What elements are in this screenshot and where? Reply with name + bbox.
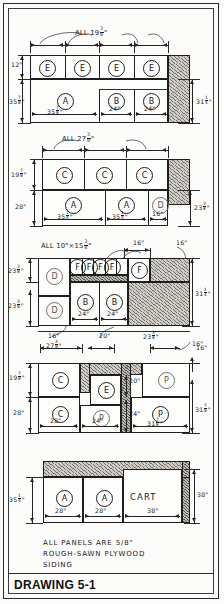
arrow bbox=[100, 43, 104, 47]
arrow bbox=[88, 346, 92, 350]
sheet-2-dim-left-2: 28" bbox=[15, 204, 26, 211]
sheet-5-dim-left-1: 3514" bbox=[9, 494, 25, 504]
ext bbox=[40, 344, 41, 353]
drawing-page: ALL 1938" E E E bbox=[0, 0, 224, 604]
divider bbox=[65, 55, 66, 79]
arrow bbox=[124, 428, 128, 432]
dimline bbox=[194, 469, 195, 523]
sheet-3-dim-bottom-5: 2338" bbox=[143, 331, 159, 341]
arrow bbox=[101, 112, 105, 116]
arrow bbox=[76, 514, 80, 518]
dimline bbox=[44, 219, 103, 220]
arrow bbox=[44, 217, 48, 221]
sheet-1-dim-bottom-3: 24" bbox=[144, 106, 155, 113]
arrow bbox=[120, 148, 124, 152]
panel-label-E: E bbox=[74, 60, 91, 77]
divider bbox=[99, 89, 168, 90]
arrow bbox=[124, 376, 128, 380]
panel-label-C: C bbox=[56, 167, 73, 184]
sheet-5-dim-bottom-3: 38" bbox=[147, 508, 158, 515]
panel-label-F: F bbox=[131, 262, 148, 279]
arrow bbox=[85, 514, 89, 518]
dimline bbox=[32, 477, 33, 523]
divider bbox=[134, 89, 135, 123]
sheet-5-dim-bottom-1: 28" bbox=[55, 508, 66, 515]
ext bbox=[26, 433, 39, 434]
arrow bbox=[125, 514, 129, 518]
panel-label-C: C bbox=[52, 372, 69, 389]
arrow bbox=[28, 277, 32, 281]
arrow bbox=[190, 357, 194, 361]
panel-label-D: D bbox=[46, 302, 63, 319]
arrow bbox=[124, 400, 128, 404]
sheet-2-dim-bottom-3: 16" bbox=[152, 211, 163, 218]
arrow bbox=[190, 428, 194, 432]
arrow bbox=[127, 112, 131, 116]
arrow bbox=[73, 424, 77, 428]
arrow bbox=[188, 221, 192, 225]
sheet-4-dim-right-2: 16" bbox=[196, 345, 207, 352]
ext bbox=[18, 55, 31, 56]
arrow bbox=[28, 398, 32, 402]
divider bbox=[105, 190, 106, 226]
arrow bbox=[45, 514, 49, 518]
panel-label-E: E bbox=[143, 60, 160, 77]
ext bbox=[182, 363, 200, 364]
arrow bbox=[190, 380, 194, 384]
ext bbox=[184, 523, 200, 524]
sheet-2-dim-right-1: 2338" bbox=[194, 202, 210, 212]
dimline bbox=[32, 114, 97, 115]
divider bbox=[134, 55, 135, 79]
arrow bbox=[85, 148, 89, 152]
arrow bbox=[82, 424, 86, 428]
arrow bbox=[94, 43, 98, 47]
sheet-2-waste-right bbox=[168, 159, 190, 205]
ext bbox=[178, 123, 200, 124]
arrow bbox=[190, 118, 194, 122]
arrow bbox=[28, 291, 32, 295]
arrow bbox=[30, 518, 34, 522]
arrow bbox=[32, 191, 36, 195]
ext bbox=[124, 248, 125, 258]
ext bbox=[168, 146, 169, 158]
dimline bbox=[125, 516, 180, 517]
arrow bbox=[128, 43, 132, 47]
sheet-5-dim-bottom-2: 28" bbox=[95, 508, 106, 515]
arrow bbox=[183, 424, 187, 428]
panel-label-F: F bbox=[104, 259, 121, 276]
arrow bbox=[66, 43, 70, 47]
ext bbox=[18, 123, 31, 124]
sheet-4-dim-right-1: 3178" bbox=[195, 404, 211, 414]
arrow bbox=[162, 112, 166, 116]
sheet-3-lower-dim-1: 2738" bbox=[46, 340, 62, 350]
arrow bbox=[145, 248, 149, 252]
sheet-3-dim-bottom-2: 24" bbox=[107, 311, 118, 318]
arrow bbox=[28, 364, 32, 368]
sheet-1-dim-right-1: 3114" bbox=[196, 96, 212, 106]
panel-label-C: C bbox=[96, 167, 113, 184]
ext bbox=[182, 433, 200, 434]
sheet-5-dim-right-1: 38" bbox=[197, 492, 208, 499]
note-line-3: SIDING bbox=[43, 560, 73, 571]
divider bbox=[99, 89, 100, 123]
dimline bbox=[192, 79, 193, 123]
arrow bbox=[163, 43, 167, 47]
arrow bbox=[32, 185, 36, 189]
ext bbox=[26, 523, 43, 524]
arrow bbox=[192, 470, 196, 474]
ext bbox=[150, 248, 151, 258]
ext bbox=[178, 226, 200, 227]
sheet-3-dim-left-1: 2338" bbox=[8, 265, 24, 275]
arrow bbox=[20, 56, 24, 60]
ext bbox=[26, 326, 39, 327]
sheet-2-dim-bottom-2: 3514" bbox=[112, 211, 128, 221]
arrow bbox=[32, 112, 36, 116]
arrow bbox=[28, 259, 32, 263]
arrow bbox=[92, 112, 96, 116]
sheet-1-dim-bottom-2: 24" bbox=[109, 106, 120, 113]
panel-label-D: D bbox=[46, 268, 63, 285]
arrow bbox=[133, 424, 137, 428]
arrow bbox=[127, 148, 131, 152]
ext bbox=[38, 331, 190, 332]
panel-label-A: A bbox=[96, 490, 113, 507]
